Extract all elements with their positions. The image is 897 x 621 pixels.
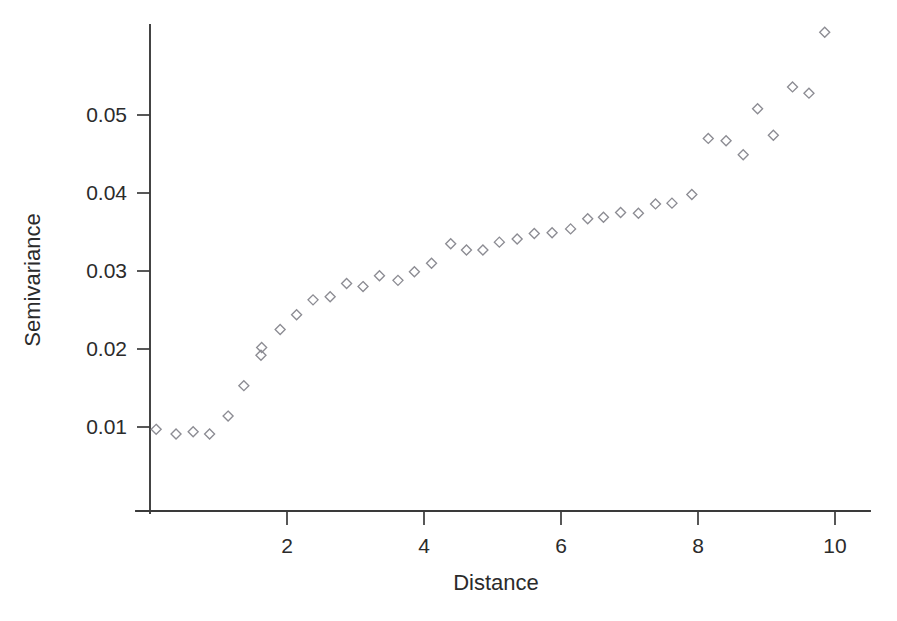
x-tick-label: 10	[823, 534, 846, 557]
data-point-marker	[461, 245, 471, 255]
data-point-marker	[308, 295, 318, 305]
plot-canvas: 0.010.020.030.040.05 246810 Semivariance…	[0, 0, 897, 621]
data-point-marker	[804, 88, 814, 98]
x-tick-label: 2	[281, 534, 293, 557]
data-point-marker	[325, 292, 335, 302]
data-point-marker	[583, 214, 593, 224]
scatter-markers	[151, 27, 830, 439]
data-point-marker	[738, 150, 748, 160]
data-point-marker	[788, 82, 798, 92]
y-tick-label: 0.02	[86, 337, 127, 360]
x-tick-label: 6	[555, 534, 567, 557]
axes-group	[136, 25, 870, 513]
data-point-marker	[598, 212, 608, 222]
data-point-marker	[651, 199, 661, 209]
data-point-marker	[566, 224, 576, 234]
data-point-marker	[494, 237, 504, 247]
x-axis-title: Distance	[453, 570, 539, 595]
data-point-marker	[478, 245, 488, 255]
y-tick-label: 0.01	[86, 415, 127, 438]
data-point-marker	[529, 229, 539, 239]
y-axis-ticks: 0.010.020.030.040.05	[86, 103, 150, 438]
data-point-marker	[446, 239, 456, 249]
data-point-marker	[223, 411, 233, 421]
data-point-marker	[188, 427, 198, 437]
data-point-marker	[768, 130, 778, 140]
y-tick-label: 0.04	[86, 181, 127, 204]
data-point-marker	[171, 429, 181, 439]
x-tick-label: 8	[692, 534, 704, 557]
data-point-marker	[292, 310, 302, 320]
data-point-marker	[374, 271, 384, 281]
data-point-marker	[721, 136, 731, 146]
data-point-marker	[358, 282, 368, 292]
data-point-marker	[393, 275, 403, 285]
data-point-marker	[667, 198, 677, 208]
semivariogram-figure: 0.010.020.030.040.05 246810 Semivariance…	[0, 0, 897, 621]
data-point-marker	[239, 381, 249, 391]
data-point-marker	[633, 208, 643, 218]
x-tick-label: 4	[418, 534, 430, 557]
data-point-marker	[703, 133, 713, 143]
data-point-marker	[547, 228, 557, 238]
data-point-marker	[205, 429, 215, 439]
data-point-marker	[687, 190, 697, 200]
data-point-marker	[151, 424, 161, 434]
data-point-marker	[753, 104, 763, 114]
data-point-marker	[427, 258, 437, 268]
data-point-marker	[409, 267, 419, 277]
data-point-marker	[616, 208, 626, 218]
data-point-marker	[512, 234, 522, 244]
y-tick-label: 0.05	[86, 103, 127, 126]
data-point-marker	[342, 278, 352, 288]
y-axis-title: Semivariance	[20, 213, 45, 346]
x-axis-ticks: 246810	[281, 511, 847, 557]
y-tick-label: 0.03	[86, 259, 127, 282]
data-point-marker	[820, 27, 830, 37]
data-point-marker	[275, 325, 285, 335]
